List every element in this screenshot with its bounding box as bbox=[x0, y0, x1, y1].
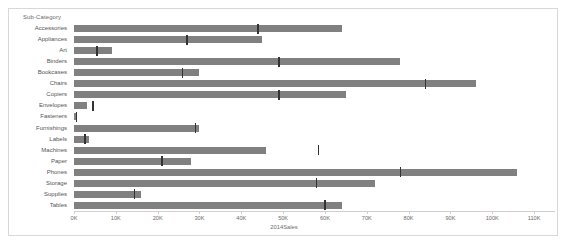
reference-line-mark bbox=[195, 123, 196, 133]
bar-row[interactable]: Labels bbox=[9, 134, 559, 145]
bar-plot-cell bbox=[74, 123, 555, 134]
x-axis-tick-label: 80K bbox=[404, 215, 414, 221]
bar-row-label: Storage bbox=[9, 178, 70, 189]
bar-row[interactable]: Envelopes bbox=[9, 100, 559, 111]
bar-row-label: Fasteners bbox=[9, 111, 70, 122]
x-axis-tick-label: 90K bbox=[445, 215, 455, 221]
bar-plot-cell bbox=[74, 156, 555, 167]
bar-plot-cell bbox=[74, 56, 555, 67]
bar-row[interactable]: Machines bbox=[9, 145, 559, 156]
bar-row-label: Binders bbox=[9, 56, 70, 67]
bar-row-label: Appliances bbox=[9, 34, 70, 45]
bar-row[interactable]: Storage bbox=[9, 178, 559, 189]
x-axis-tick-label: 10K bbox=[111, 215, 121, 221]
x-axis-tick bbox=[158, 211, 159, 214]
bar-row-label: Art bbox=[9, 45, 70, 56]
bar-plot-cell bbox=[74, 200, 555, 211]
bar-mark[interactable] bbox=[74, 58, 400, 65]
reference-line-mark bbox=[84, 134, 85, 144]
bar-mark[interactable] bbox=[74, 202, 342, 209]
bar-row[interactable]: Appliances bbox=[9, 34, 559, 45]
bar-mark[interactable] bbox=[74, 36, 262, 43]
bar-row[interactable]: Art bbox=[9, 45, 559, 56]
reference-line-mark bbox=[318, 145, 319, 155]
bar-row[interactable]: Copiers bbox=[9, 89, 559, 100]
bar-mark[interactable] bbox=[74, 158, 191, 165]
bar-row[interactable]: Chairs bbox=[9, 78, 559, 89]
reference-line-mark bbox=[76, 112, 77, 122]
reference-line-mark bbox=[96, 46, 97, 56]
reference-line-mark bbox=[186, 35, 187, 45]
bar-row[interactable]: Supplies bbox=[9, 189, 559, 200]
bar-mark[interactable] bbox=[74, 47, 112, 54]
reference-line-mark bbox=[257, 24, 258, 34]
bar-row-label: Furnishings bbox=[9, 123, 70, 134]
x-axis-tick bbox=[325, 211, 326, 214]
x-axis-tick bbox=[283, 211, 284, 214]
x-axis-tick bbox=[367, 211, 368, 214]
bar-rows: AccessoriesAppliancesArtBindersBookcases… bbox=[9, 23, 559, 211]
dimension-header: Sub-Category bbox=[23, 14, 61, 20]
bar-mark[interactable] bbox=[74, 125, 199, 132]
reference-line-mark bbox=[161, 156, 162, 166]
bar-row[interactable]: Tables bbox=[9, 200, 559, 211]
x-axis-tick-label: 50K bbox=[278, 215, 288, 221]
bar-plot-cell bbox=[74, 178, 555, 189]
bar-mark[interactable] bbox=[74, 25, 342, 32]
bar-plot-cell bbox=[74, 134, 555, 145]
bar-chart: Sub-Category AccessoriesAppliancesArtBin… bbox=[9, 9, 559, 237]
bar-plot-cell bbox=[74, 145, 555, 156]
bar-row[interactable]: Binders bbox=[9, 56, 559, 67]
visualization-frame: Sub-Category AccessoriesAppliancesArtBin… bbox=[8, 8, 558, 236]
bar-row-label: Bookcases bbox=[9, 67, 70, 78]
reference-line-mark bbox=[182, 68, 183, 78]
reference-line-mark bbox=[278, 57, 279, 67]
bar-plot-cell bbox=[74, 189, 555, 200]
x-axis-tick-label: 30K bbox=[194, 215, 204, 221]
bar-row[interactable]: Paper bbox=[9, 156, 559, 167]
bar-mark[interactable] bbox=[74, 91, 346, 98]
bar-plot-cell bbox=[74, 34, 555, 45]
x-axis-tick-label: 70K bbox=[362, 215, 372, 221]
bar-plot-cell bbox=[74, 111, 555, 122]
bar-row-label: Copiers bbox=[9, 89, 70, 100]
bar-row-label: Tables bbox=[9, 200, 70, 211]
bar-row[interactable]: Bookcases bbox=[9, 67, 559, 78]
reference-line-mark bbox=[316, 178, 317, 188]
reference-line-mark bbox=[400, 167, 401, 177]
x-axis-line bbox=[74, 211, 555, 212]
bar-plot-cell bbox=[74, 67, 555, 78]
x-axis-tick bbox=[116, 211, 117, 214]
bar-plot-cell bbox=[74, 167, 555, 178]
bar-row[interactable]: Phones bbox=[9, 167, 559, 178]
reference-line-mark bbox=[324, 200, 325, 210]
x-axis-tick bbox=[534, 211, 535, 214]
bar-plot-cell bbox=[74, 45, 555, 56]
bar-mark[interactable] bbox=[74, 136, 89, 143]
bar-mark[interactable] bbox=[74, 147, 266, 154]
bar-mark[interactable] bbox=[74, 169, 517, 176]
x-axis-tick-label: 100K bbox=[486, 215, 499, 221]
x-axis-tick bbox=[409, 211, 410, 214]
bar-row[interactable]: Fasteners bbox=[9, 111, 559, 122]
x-axis-tick-label: 60K bbox=[320, 215, 330, 221]
bar-row[interactable]: Furnishings bbox=[9, 123, 559, 134]
bar-mark[interactable] bbox=[74, 180, 375, 187]
x-axis-tick bbox=[450, 211, 451, 214]
bar-row-label: Paper bbox=[9, 156, 70, 167]
bar-plot-cell bbox=[74, 89, 555, 100]
bar-mark[interactable] bbox=[74, 191, 141, 198]
bar-row[interactable]: Accessories bbox=[9, 23, 559, 34]
bar-row-label: Phones bbox=[9, 167, 70, 178]
bar-mark[interactable] bbox=[74, 69, 199, 76]
bar-mark[interactable] bbox=[74, 102, 87, 109]
x-axis-title: 2014Sales bbox=[9, 224, 559, 230]
bar-row-label: Accessories bbox=[9, 23, 70, 34]
x-axis-tick bbox=[492, 211, 493, 214]
x-axis-tick bbox=[74, 211, 75, 214]
bar-mark[interactable] bbox=[74, 80, 476, 87]
x-axis-tick bbox=[199, 211, 200, 214]
bar-plot-cell bbox=[74, 100, 555, 111]
x-axis-tick bbox=[241, 211, 242, 214]
x-axis-tick-label: 40K bbox=[236, 215, 246, 221]
